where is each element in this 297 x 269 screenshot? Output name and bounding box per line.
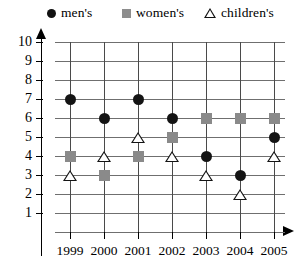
y-axis-label: 1 bbox=[8, 206, 32, 220]
gridline-horizontal bbox=[55, 232, 285, 233]
x-axis-tick bbox=[240, 232, 241, 239]
gridline-vertical bbox=[240, 42, 241, 232]
y-axis-tick bbox=[36, 175, 43, 176]
y-axis-arrow-icon bbox=[36, 28, 46, 39]
data-point-circle bbox=[201, 151, 212, 162]
y-axis-label: 9 bbox=[8, 54, 32, 68]
data-point-triangle bbox=[63, 170, 77, 181]
gridline-horizontal bbox=[55, 80, 285, 81]
gridline-horizontal bbox=[55, 213, 285, 214]
data-point-triangle bbox=[131, 132, 145, 143]
gridline-vertical bbox=[206, 42, 207, 232]
data-point-circle bbox=[99, 113, 110, 124]
data-point-square bbox=[201, 113, 212, 124]
y-axis-tick bbox=[36, 213, 43, 214]
y-axis-label: 3 bbox=[8, 168, 32, 182]
data-point-triangle bbox=[165, 151, 179, 162]
data-point-triangle bbox=[199, 170, 213, 181]
y-axis-label: 8 bbox=[8, 73, 32, 87]
y-axis-tick bbox=[36, 194, 43, 195]
data-point-square bbox=[269, 113, 280, 124]
y-axis-tick bbox=[36, 99, 43, 100]
x-axis-arrow-icon bbox=[283, 226, 294, 236]
y-axis-label: 2 bbox=[8, 187, 32, 201]
y-axis-line bbox=[41, 36, 42, 256]
x-axis-tick bbox=[70, 232, 71, 239]
gridline-horizontal bbox=[55, 42, 285, 43]
plot-area: 109876543211999200020012002200320042005 bbox=[0, 0, 297, 269]
x-axis-tick bbox=[138, 232, 139, 239]
data-point-circle bbox=[65, 94, 76, 105]
y-axis-label: 10 bbox=[8, 35, 32, 49]
y-axis-label: 5 bbox=[8, 130, 32, 144]
data-point-triangle bbox=[267, 151, 281, 162]
y-axis-tick bbox=[36, 156, 43, 157]
gridline-vertical bbox=[104, 42, 105, 232]
x-axis-tick bbox=[274, 232, 275, 239]
y-axis-label: 7 bbox=[8, 92, 32, 106]
x-axis-label: 2005 bbox=[251, 244, 297, 258]
data-point-square bbox=[99, 170, 110, 181]
data-point-triangle bbox=[97, 151, 111, 162]
x-axis-tick bbox=[104, 232, 105, 239]
data-point-square bbox=[65, 151, 76, 162]
gridline-horizontal bbox=[55, 61, 285, 62]
data-point-triangle bbox=[233, 189, 247, 200]
gridline-horizontal bbox=[55, 194, 285, 195]
x-axis-tick bbox=[206, 232, 207, 239]
scatter-chart: men's women's children's 109876543211999… bbox=[0, 0, 297, 269]
data-point-circle bbox=[269, 132, 280, 143]
gridline-horizontal bbox=[55, 99, 285, 100]
data-point-square bbox=[133, 151, 144, 162]
gridline-vertical bbox=[70, 42, 71, 232]
y-axis-tick bbox=[36, 42, 43, 43]
y-axis-label: 6 bbox=[8, 111, 32, 125]
data-point-circle bbox=[167, 113, 178, 124]
y-axis-tick bbox=[36, 137, 43, 138]
data-point-circle bbox=[235, 170, 246, 181]
data-point-circle bbox=[133, 94, 144, 105]
gridline-horizontal bbox=[55, 175, 285, 176]
y-axis-label: 4 bbox=[8, 149, 32, 163]
data-point-square bbox=[167, 132, 178, 143]
y-axis-tick bbox=[36, 118, 43, 119]
y-axis-tick bbox=[36, 61, 43, 62]
y-axis-tick bbox=[36, 80, 43, 81]
x-axis-tick bbox=[172, 232, 173, 239]
data-point-square bbox=[235, 113, 246, 124]
